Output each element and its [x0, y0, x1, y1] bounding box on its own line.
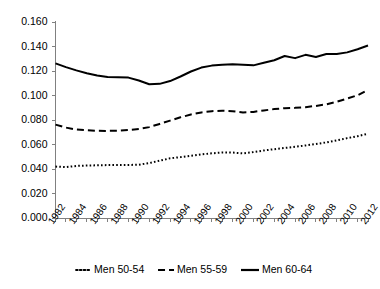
- y-axis-ticks: 0.0000.0200.0400.0600.0800.1000.1200.140…: [21, 15, 55, 223]
- x-tick-label: 1994: [171, 201, 193, 226]
- x-tick-label: 1990: [129, 201, 151, 226]
- y-tick-label: 0.040: [21, 162, 47, 174]
- chart-legend: Men 50-54Men 55-59Men 60-64: [76, 263, 312, 275]
- x-tick-label: 2000: [233, 201, 255, 226]
- x-tick-label: 1998: [212, 201, 234, 226]
- y-tick-label: 0.160: [21, 15, 47, 27]
- x-tick-label: 1992: [150, 201, 172, 226]
- series-line: [56, 134, 369, 167]
- series-line: [56, 90, 369, 131]
- x-tick-label: 1984: [66, 201, 88, 226]
- x-axis-labels: 1982198419861988199019921994199619982000…: [46, 201, 380, 226]
- x-tick-label: 1996: [191, 201, 213, 226]
- y-tick-label: 0.100: [21, 89, 47, 101]
- y-tick-label: 0.060: [21, 138, 47, 150]
- y-tick-label: 0.020: [21, 187, 47, 199]
- y-tick-label: 0.000: [21, 211, 47, 223]
- y-tick-label: 0.120: [21, 64, 47, 76]
- x-tick-label: 1988: [108, 201, 130, 226]
- x-tick-label: 1986: [87, 201, 109, 226]
- line-chart: 0.0000.0200.0400.0600.0800.1000.1200.140…: [0, 0, 380, 289]
- legend-label: Men 55-59: [177, 263, 227, 275]
- legend-label: Men 60-64: [262, 263, 312, 275]
- y-tick-label: 0.080: [21, 113, 47, 125]
- x-tick-label: 2004: [275, 201, 297, 226]
- x-tick-label: 2008: [316, 201, 338, 226]
- x-tick-label: 1982: [46, 201, 68, 226]
- legend-label: Men 50-54: [94, 263, 144, 275]
- x-tick-label: 2010: [337, 201, 359, 226]
- series-line: [56, 46, 369, 85]
- x-tick-label: 2006: [296, 201, 318, 226]
- series-lines: [56, 46, 369, 168]
- y-tick-label: 0.140: [21, 40, 47, 52]
- chart-container: 0.0000.0200.0400.0600.0800.1000.1200.140…: [0, 0, 380, 289]
- x-tick-label: 2012: [358, 201, 380, 226]
- x-tick-label: 2002: [254, 201, 276, 226]
